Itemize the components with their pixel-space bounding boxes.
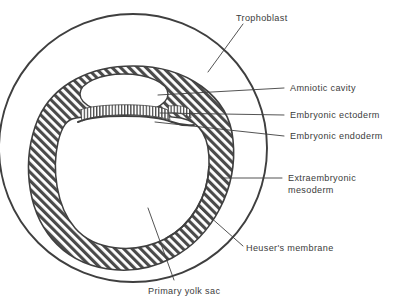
label-trophoblast: Trophoblast [236,13,288,23]
label-extraembryonic-mesoderm-line1: Extraembryonic [288,173,356,183]
label-primary-yolk-sac: Primary yolk sac [148,286,220,296]
label-amniotic-cavity: Amniotic cavity [290,83,356,93]
label-extraembryonic-mesoderm-line2: mesoderm [288,185,334,195]
label-heusers-membrane: Heuser's membrane [246,243,334,253]
embryo-diagram: Trophoblast Amniotic cavity Embryonic ec… [0,0,398,308]
extraembryonic-mesoderm-region [0,0,398,308]
label-embryonic-endoderm: Embryonic endoderm [290,131,383,141]
label-embryonic-ectoderm: Embryonic ectoderm [290,110,380,120]
diagram-canvas: Trophoblast Amniotic cavity Embryonic ec… [0,0,398,308]
